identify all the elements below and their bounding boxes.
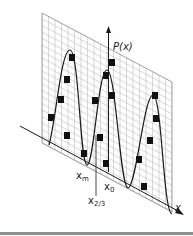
x23-label: x2/3 (88, 195, 105, 208)
separator-line (0, 232, 193, 235)
xm-label: xm (76, 170, 89, 183)
y-axis-arrow-icon (106, 26, 111, 33)
x-axis-label: x (174, 202, 181, 213)
grid-plane (42, 0, 172, 236)
x0-label: x0 (104, 181, 114, 194)
y-axis-label: P(x) (113, 41, 133, 52)
probability-diagram: P(x) x xm x0 x2/3 (0, 0, 193, 236)
